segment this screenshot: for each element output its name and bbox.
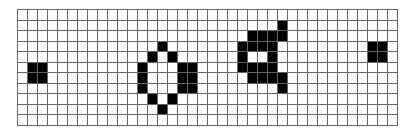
grid-cell[interactable]: [168, 115, 178, 126]
grid-cell-filled[interactable]: [278, 21, 288, 32]
grid-cell[interactable]: [58, 21, 68, 32]
grid-cell-filled[interactable]: [238, 63, 248, 74]
grid-cell[interactable]: [58, 63, 68, 74]
grid-cell[interactable]: [328, 73, 338, 84]
grid-cell[interactable]: [188, 42, 198, 53]
grid-cell[interactable]: [38, 42, 48, 53]
grid-cell-filled[interactable]: [148, 52, 158, 63]
grid-cell-filled[interactable]: [378, 52, 388, 63]
grid-cell[interactable]: [388, 31, 398, 42]
grid-cell[interactable]: [198, 31, 208, 42]
grid-cell-filled[interactable]: [158, 105, 168, 116]
grid-cell[interactable]: [98, 52, 108, 63]
grid-cell[interactable]: [98, 115, 108, 126]
grid-cell[interactable]: [208, 105, 218, 116]
grid-cell[interactable]: [348, 31, 358, 42]
grid-cell[interactable]: [208, 115, 218, 126]
grid-cell[interactable]: [268, 21, 278, 32]
grid-cell[interactable]: [338, 52, 348, 63]
grid-cell[interactable]: [318, 105, 328, 116]
grid-cell[interactable]: [378, 10, 388, 21]
grid-cell[interactable]: [358, 63, 368, 74]
grid-cell[interactable]: [278, 52, 288, 63]
grid-cell[interactable]: [128, 10, 138, 21]
grid-cell[interactable]: [68, 73, 78, 84]
grid-cell[interactable]: [258, 52, 268, 63]
grid-cell[interactable]: [308, 42, 318, 53]
grid-cell[interactable]: [118, 115, 128, 126]
grid-cell[interactable]: [388, 63, 398, 74]
grid-cell[interactable]: [118, 10, 128, 21]
grid-cell[interactable]: [258, 21, 268, 32]
grid-cell[interactable]: [288, 42, 298, 53]
grid-cell[interactable]: [358, 94, 368, 105]
grid-cell[interactable]: [288, 84, 298, 95]
grid-cell[interactable]: [298, 73, 308, 84]
grid-cell[interactable]: [18, 73, 28, 84]
grid-cell[interactable]: [378, 73, 388, 84]
grid-cell-filled[interactable]: [258, 42, 268, 53]
grid-cell[interactable]: [138, 21, 148, 32]
grid-cell[interactable]: [238, 105, 248, 116]
grid-cell[interactable]: [148, 115, 158, 126]
grid-cell[interactable]: [178, 105, 188, 116]
grid-cell[interactable]: [28, 21, 38, 32]
grid-cell[interactable]: [218, 10, 228, 21]
grid-cell[interactable]: [58, 84, 68, 95]
grid-cell-filled[interactable]: [268, 63, 278, 74]
grid-cell[interactable]: [28, 105, 38, 116]
grid-cell[interactable]: [58, 42, 68, 53]
grid-cell[interactable]: [148, 63, 158, 74]
grid-cell[interactable]: [188, 10, 198, 21]
grid-cell[interactable]: [168, 21, 178, 32]
grid-cell[interactable]: [118, 73, 128, 84]
grid-cell[interactable]: [108, 21, 118, 32]
grid-cell[interactable]: [328, 115, 338, 126]
grid-cell-filled[interactable]: [178, 84, 188, 95]
grid-cell[interactable]: [348, 21, 358, 32]
grid-cell[interactable]: [78, 94, 88, 105]
grid-cell[interactable]: [148, 10, 158, 21]
grid-cell[interactable]: [278, 94, 288, 105]
grid-cell[interactable]: [338, 73, 348, 84]
grid-cell[interactable]: [388, 94, 398, 105]
grid-cell-filled[interactable]: [268, 73, 278, 84]
grid-cell[interactable]: [378, 115, 388, 126]
grid-cell[interactable]: [128, 31, 138, 42]
grid-cell[interactable]: [158, 21, 168, 32]
grid-cell[interactable]: [18, 31, 28, 42]
grid-cell[interactable]: [98, 63, 108, 74]
grid-cell[interactable]: [338, 94, 348, 105]
grid-cell[interactable]: [368, 10, 378, 21]
grid-cell-filled[interactable]: [278, 31, 288, 42]
grid-cell[interactable]: [358, 115, 368, 126]
grid-cell[interactable]: [128, 115, 138, 126]
grid-cell[interactable]: [188, 115, 198, 126]
grid-cell-filled[interactable]: [38, 73, 48, 84]
grid-cell[interactable]: [248, 52, 258, 63]
grid-cell[interactable]: [228, 10, 238, 21]
grid-cell[interactable]: [198, 105, 208, 116]
grid-cell[interactable]: [158, 115, 168, 126]
grid-cell[interactable]: [108, 73, 118, 84]
grid-cell[interactable]: [218, 94, 228, 105]
grid-cell[interactable]: [308, 84, 318, 95]
grid-cell[interactable]: [218, 84, 228, 95]
grid-cell[interactable]: [248, 105, 258, 116]
grid-cell[interactable]: [228, 105, 238, 116]
grid-cell[interactable]: [358, 105, 368, 116]
grid-cell[interactable]: [378, 105, 388, 116]
grid-cell[interactable]: [108, 10, 118, 21]
grid-cell[interactable]: [68, 94, 78, 105]
grid-cell[interactable]: [308, 105, 318, 116]
grid-cell[interactable]: [318, 42, 328, 53]
grid-cell[interactable]: [268, 84, 278, 95]
grid-cell-filled[interactable]: [278, 73, 288, 84]
grid-cell[interactable]: [68, 105, 78, 116]
grid-cell[interactable]: [148, 73, 158, 84]
grid-cell[interactable]: [288, 105, 298, 116]
grid-cell[interactable]: [258, 94, 268, 105]
grid-cell[interactable]: [338, 115, 348, 126]
grid-cell[interactable]: [338, 105, 348, 116]
grid-cell[interactable]: [208, 63, 218, 74]
